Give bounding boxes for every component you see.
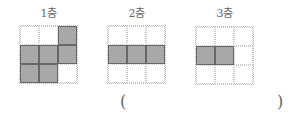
empty-cell [234, 27, 253, 46]
filled-cell [215, 46, 234, 65]
filled-cell [108, 45, 127, 64]
open-paren: ( [120, 92, 126, 111]
empty-cell [108, 64, 127, 83]
empty-cell [196, 65, 215, 84]
filled-cell [20, 64, 39, 83]
filled-cell [39, 45, 58, 64]
floor-3-grid [195, 26, 254, 85]
filled-cell [196, 46, 215, 65]
empty-cell [234, 65, 253, 84]
empty-cell [108, 26, 127, 45]
empty-cell [215, 27, 234, 46]
empty-cell [127, 64, 146, 83]
filled-cell [20, 45, 39, 64]
empty-cell [39, 26, 58, 45]
empty-cell [20, 26, 39, 45]
floor-2-label: 2층 [107, 4, 167, 20]
floor-1-label: 1층 [19, 4, 79, 20]
empty-cell [196, 27, 215, 46]
filled-cell [146, 45, 165, 64]
empty-cell [127, 26, 146, 45]
floor-1-grid [19, 25, 78, 84]
filled-cell [58, 45, 77, 64]
filled-cell [58, 26, 77, 45]
filled-cell [39, 64, 58, 83]
close-paren: ) [277, 92, 283, 111]
empty-cell [146, 26, 165, 45]
floor-3-label: 3층 [195, 4, 255, 20]
empty-cell [58, 64, 77, 83]
floor-2-grid [107, 25, 166, 84]
empty-cell [234, 46, 253, 65]
filled-cell [127, 45, 146, 64]
empty-cell [146, 64, 165, 83]
empty-cell [215, 65, 234, 84]
